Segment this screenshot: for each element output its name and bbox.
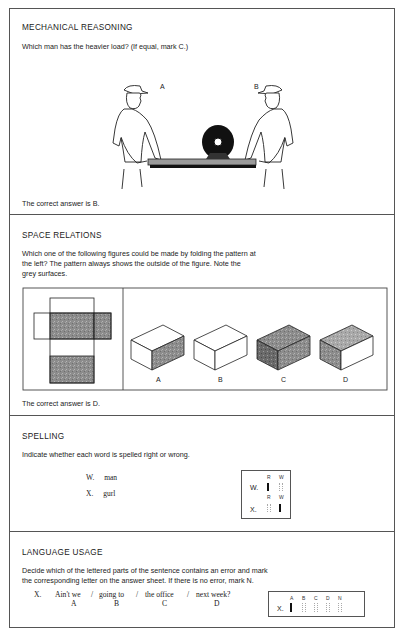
question-prompt: Decide which of the lettered parts of th… (22, 566, 268, 586)
sentence-part-d: next week? (196, 590, 230, 599)
option-d-figure (320, 325, 373, 370)
column-w-label: W (279, 494, 284, 500)
bubble-c-empty[interactable] (314, 603, 318, 612)
bubble-w-r-filled[interactable] (267, 483, 269, 491)
bubble-n-empty[interactable] (338, 603, 342, 612)
section-divider (10, 415, 394, 416)
item-word: gurl (103, 489, 115, 498)
sentence-part-c: the office (145, 590, 174, 599)
row-w-label: W. (250, 484, 258, 491)
spelling-answer-sheet: R W W. R W X. (241, 470, 291, 519)
section-divider (10, 531, 394, 532)
item-letter: X. (86, 489, 93, 498)
column-n-label: N (338, 595, 342, 601)
bubble-w-w-empty[interactable] (279, 483, 283, 491)
bubble-x-w-filled[interactable] (279, 504, 281, 512)
space-relations-figure (10, 9, 396, 409)
column-r-label: R (267, 494, 271, 500)
bubble-b-empty[interactable] (302, 603, 306, 612)
sentence-part-a: Ain't we (55, 590, 81, 599)
row-x-label: X. (250, 506, 257, 513)
column-c-label: C (314, 595, 318, 601)
test-sample-sheet: MECHANICAL REASONING Which man has the h… (9, 8, 395, 628)
prompt-line: the corresponding letter on the answer s… (22, 576, 268, 586)
separator: / (187, 590, 189, 599)
column-w-label: W (279, 474, 284, 480)
bubble-a-filled[interactable] (290, 603, 292, 612)
option-a-figure (131, 325, 184, 370)
prompt-line: Decide which of the lettered parts of th… (22, 566, 268, 576)
bubble-d-empty[interactable] (326, 603, 330, 612)
option-d-label: D (343, 376, 348, 383)
option-c-figure (257, 325, 310, 370)
row-x-label: X. (277, 605, 284, 612)
item-letter: X. (34, 590, 41, 599)
correct-answer-text: The correct answer is D. (22, 399, 100, 408)
item-letter: W. (86, 473, 94, 482)
part-c-letter: C (162, 599, 167, 608)
option-c-label: C (281, 376, 286, 383)
question-prompt: Indicate whether each word is spelled ri… (22, 450, 190, 460)
part-b-letter: B (114, 599, 119, 608)
option-a-label: A (156, 376, 161, 383)
section-heading: LANGUAGE USAGE (22, 548, 103, 557)
spelling-item-x: X. gurl (86, 489, 115, 498)
column-r-label: R (267, 474, 271, 480)
usage-answer-sheet: A B C D N X. (268, 591, 365, 617)
folding-pattern (34, 298, 111, 383)
part-d-letter: D (214, 599, 219, 608)
sentence-part-b: going to (99, 590, 124, 599)
spelling-item-w: W. man (86, 473, 117, 482)
item-word: man (104, 473, 117, 482)
column-b-label: B (302, 595, 305, 601)
separator: / (136, 590, 138, 599)
section-heading: SPELLING (22, 432, 64, 441)
column-a-label: A (290, 595, 293, 601)
part-a-letter: A (71, 599, 76, 608)
separator: / (91, 590, 93, 599)
column-d-label: D (326, 595, 330, 601)
bubble-x-r-empty[interactable] (267, 504, 271, 512)
option-b-label: B (218, 376, 223, 383)
option-b-figure (194, 325, 247, 370)
